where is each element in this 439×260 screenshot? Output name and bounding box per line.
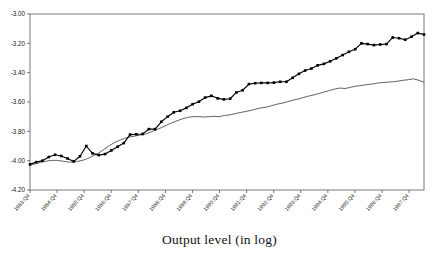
data-point-marker bbox=[379, 43, 382, 46]
data-point-marker bbox=[160, 121, 163, 124]
data-point-marker bbox=[223, 98, 226, 101]
data-point-marker bbox=[254, 82, 257, 85]
x-axis-tick-label: 1986:Q4 bbox=[94, 193, 112, 212]
x-axis-tick-label: 1984:Q4 bbox=[40, 193, 58, 212]
data-point-marker bbox=[41, 159, 44, 162]
data-point-marker bbox=[335, 57, 338, 60]
data-point-marker bbox=[148, 128, 151, 131]
data-point-marker bbox=[60, 155, 63, 158]
x-axis-tick-label: 1994:Q4 bbox=[310, 193, 328, 212]
data-point-marker bbox=[235, 91, 238, 94]
data-point-marker bbox=[366, 43, 369, 46]
data-point-marker bbox=[298, 73, 301, 76]
data-point-marker bbox=[385, 43, 388, 46]
data-point-marker bbox=[391, 36, 394, 39]
data-point-marker bbox=[216, 97, 219, 100]
data-point-marker bbox=[135, 133, 138, 136]
data-point-marker bbox=[173, 111, 176, 114]
data-point-marker bbox=[360, 42, 363, 45]
data-point-marker bbox=[179, 110, 182, 113]
data-point-marker bbox=[404, 38, 407, 41]
data-point-marker bbox=[91, 152, 94, 155]
data-point-marker bbox=[47, 156, 50, 159]
data-point-marker bbox=[154, 128, 157, 131]
y-axis-tick-label: -3.00 bbox=[11, 10, 26, 17]
y-axis-tick-label: -4.00 bbox=[11, 157, 26, 164]
y-axis-tick-label: -3.20 bbox=[11, 40, 26, 47]
data-point-marker bbox=[72, 160, 75, 163]
data-point-marker bbox=[341, 54, 344, 57]
x-axis-tick-label: 1992:Q4 bbox=[256, 193, 274, 212]
data-point-marker bbox=[123, 142, 126, 145]
y-axis-tick-label: -3.40 bbox=[11, 69, 26, 76]
data-point-marker bbox=[54, 154, 57, 157]
data-point-marker bbox=[398, 37, 401, 40]
data-point-marker bbox=[348, 51, 351, 54]
data-point-marker bbox=[291, 77, 294, 80]
x-axis-tick-label: 1996:Q4 bbox=[364, 193, 382, 212]
data-point-marker bbox=[416, 32, 419, 35]
data-point-marker bbox=[141, 133, 144, 136]
data-point-marker bbox=[198, 100, 201, 103]
x-axis-tick-label: 1989:Q4 bbox=[175, 193, 193, 212]
data-point-marker bbox=[204, 96, 207, 99]
data-point-marker bbox=[79, 155, 82, 158]
output-level-line-chart: -3.00-3.20-3.40-3.60-3.80-4.00-4.20 1983… bbox=[0, 0, 439, 260]
data-point-marker bbox=[310, 67, 313, 70]
x-axis-tick-label: 1991:Q4 bbox=[229, 193, 247, 212]
y-axis-tick-label: -3.60 bbox=[11, 98, 26, 105]
data-point-marker bbox=[273, 81, 276, 84]
data-point-marker bbox=[129, 133, 132, 136]
data-point-marker bbox=[116, 145, 119, 148]
data-point-marker bbox=[329, 60, 332, 63]
chart-caption: Output level (in log) bbox=[0, 232, 439, 248]
data-point-marker bbox=[279, 80, 282, 83]
data-point-marker bbox=[323, 63, 326, 66]
data-point-marker bbox=[260, 82, 263, 85]
x-axis-tick-label: 1985:Q4 bbox=[67, 193, 85, 212]
data-point-marker bbox=[410, 35, 413, 38]
plot-area-border bbox=[30, 14, 424, 190]
data-point-marker bbox=[210, 95, 213, 98]
y-axis-tick-label: -4.20 bbox=[11, 186, 26, 193]
data-point-marker bbox=[97, 154, 100, 157]
data-point-marker bbox=[266, 82, 269, 85]
data-point-marker bbox=[66, 157, 69, 160]
chart-figure: -3.00-3.20-3.40-3.60-3.80-4.00-4.20 1983… bbox=[0, 0, 439, 260]
y-axis-tick-label: -3.80 bbox=[11, 128, 26, 135]
data-point-marker bbox=[166, 115, 169, 118]
data-point-marker bbox=[241, 89, 244, 92]
x-axis-tick-label: 1990:Q4 bbox=[202, 193, 220, 212]
x-axis-tick-label: 1997:Q4 bbox=[392, 193, 410, 212]
plot-frame bbox=[30, 14, 424, 190]
data-point-marker bbox=[104, 153, 107, 156]
x-axis-tick-label: 1988:Q4 bbox=[148, 193, 166, 212]
x-axis-tick-labels: 1983:Q41984:Q41985:Q41986:Q41987:Q41988:… bbox=[12, 193, 409, 212]
x-axis-tick-label: 1983:Q4 bbox=[12, 193, 30, 212]
data-point-marker bbox=[423, 33, 426, 36]
y-axis-tick-labels: -3.00-3.20-3.40-3.60-3.80-4.00-4.20 bbox=[11, 10, 26, 193]
data-point-marker bbox=[229, 97, 232, 100]
data-point-marker bbox=[285, 80, 288, 83]
data-point-marker bbox=[85, 145, 88, 148]
data-point-marker bbox=[110, 149, 113, 152]
x-axis-tick-label: 1993:Q4 bbox=[283, 193, 301, 212]
data-point-marker bbox=[191, 103, 194, 106]
data-point-marker bbox=[185, 107, 188, 110]
data-point-marker bbox=[304, 69, 307, 72]
x-axis-tick-label: 1987:Q4 bbox=[121, 193, 139, 212]
data-point-marker bbox=[248, 83, 251, 86]
data-point-marker bbox=[373, 44, 376, 47]
data-point-marker bbox=[316, 64, 319, 67]
data-point-marker bbox=[354, 48, 357, 51]
x-axis-tick-label: 1995:Q4 bbox=[337, 193, 355, 212]
data-point-marker bbox=[29, 163, 32, 166]
data-point-marker bbox=[35, 161, 38, 164]
